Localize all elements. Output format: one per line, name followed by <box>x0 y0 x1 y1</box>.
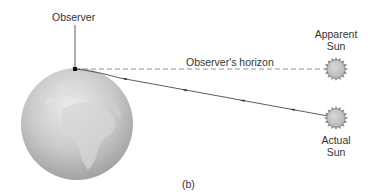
actual-sun-label-line1: Actual <box>313 134 359 146</box>
observer-point <box>73 67 77 71</box>
actual-sun-label-line2: Sun <box>313 146 359 158</box>
apparent-sun-label-line2: Sun <box>310 40 362 52</box>
horizon-label: Observer's horizon <box>186 56 274 68</box>
apparent-sun-icon <box>324 57 348 81</box>
actual-sun-label: Actual Sun <box>313 134 359 158</box>
panel-label: (b) <box>182 178 195 190</box>
apparent-sun-label: Apparent Sun <box>310 28 362 52</box>
observer-label: Observer <box>52 11 95 23</box>
apparent-sun-label-line1: Apparent <box>310 28 362 40</box>
actual-sun-icon <box>324 106 348 130</box>
earth-globe-icon <box>21 68 133 180</box>
